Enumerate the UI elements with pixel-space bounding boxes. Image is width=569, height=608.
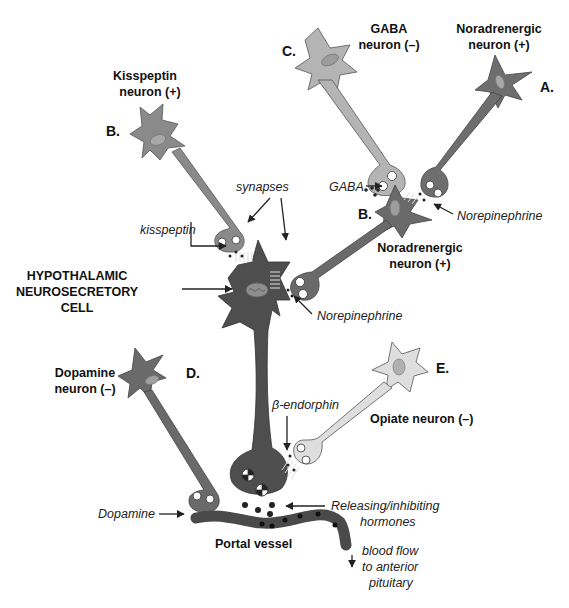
kisspeptin-neuron-title: Kisspeptin: [113, 69, 177, 83]
kisspeptin-label: kisspeptin: [140, 223, 196, 237]
noradrenergic-b-subtitle: neuron (+): [389, 257, 450, 271]
noradrenergic-a-title: Noradrenergic: [456, 22, 541, 36]
neurosecretory-title-2: NEUROSECRETORY: [16, 285, 139, 299]
dopamine-letter: D.: [186, 365, 200, 381]
dopamine-neuron-title: Dopamine: [55, 366, 115, 380]
gaba-label: GABA: [329, 180, 364, 194]
opiate-letter: E.: [436, 360, 449, 376]
opiate-neuron-title: Opiate neuron (–): [370, 412, 473, 426]
dopamine-label: Dopamine: [98, 507, 155, 521]
portal-vessel-label: Portal vessel: [215, 537, 292, 551]
gaba-letter: C.: [282, 43, 296, 59]
noradrenergic-a-letter: A.: [540, 79, 554, 95]
hypothalamic-neuron-diagram: Kisspeptin neuron (+) B. C. GABA neuron …: [0, 0, 569, 608]
gaba-neuron: [295, 28, 405, 196]
gaba-neuron-title: GABA: [371, 22, 408, 36]
neurosecretory-title-1: HYPOTHALAMIC: [27, 269, 128, 283]
kisspeptin-neuron-subtitle: neuron (+): [119, 85, 180, 99]
blood-flow-label-1: blood flow: [362, 544, 419, 558]
noradrenergic-b-letter: B.: [358, 206, 372, 222]
dopamine-neuron-subtitle: neuron (–): [54, 382, 115, 396]
dopamine-neuron: [118, 348, 219, 512]
blood-flow-label-2: to anterior: [362, 560, 419, 574]
releasing-label-1: Releasing/inhibiting: [331, 499, 439, 513]
releasing-label-2: hormones: [360, 515, 416, 529]
noradrenergic-b-title: Noradrenergic: [377, 241, 462, 255]
norepinephrine-lower-label: Norepinephrine: [317, 309, 403, 323]
kisspeptin-letter: B.: [106, 123, 120, 139]
gaba-neuron-subtitle: neuron (–): [358, 38, 419, 52]
neurosecretory-title-3: CELL: [61, 301, 94, 315]
synapses-label: synapses: [236, 180, 289, 194]
neurosecretory-cell: [218, 240, 290, 496]
blood-flow-label-3: pituitary: [368, 576, 414, 590]
noradrenergic-a-subtitle: neuron (+): [468, 38, 529, 52]
beta-endorphin-label: β-endorphin: [271, 398, 339, 412]
noradrenergic-neuron-a: [421, 55, 532, 197]
norepinephrine-upper-label: Norepinephrine: [457, 209, 543, 223]
